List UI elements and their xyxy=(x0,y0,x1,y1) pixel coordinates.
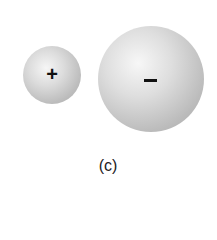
minus-sign-icon xyxy=(144,79,157,82)
plus-sign-icon: + xyxy=(40,64,64,84)
figure-caption: (c) xyxy=(92,157,124,175)
